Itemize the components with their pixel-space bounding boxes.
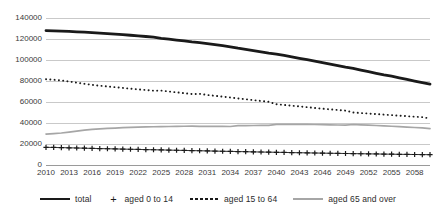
- x-axis-label: 2055: [383, 168, 401, 178]
- y-axis-label: 140000: [0, 14, 46, 22]
- x-axis-label: 2049: [337, 168, 355, 178]
- solid-thick-line-icon: [40, 195, 70, 204]
- data-point-marker: [89, 146, 94, 151]
- data-point-marker: [343, 151, 348, 156]
- population-projection-chart: 020000400006000080000100000120000140000 …: [0, 0, 436, 218]
- data-point-marker: [113, 146, 118, 151]
- legend-item[interactable]: total: [40, 194, 92, 204]
- y-axis-label: 80000: [0, 77, 46, 85]
- data-point-marker: [251, 149, 256, 154]
- data-point-marker: [312, 150, 317, 155]
- data-point-marker: [320, 151, 325, 156]
- data-point-marker: [143, 147, 148, 152]
- data-point-marker: [128, 147, 133, 152]
- y-axis-label: 40000: [0, 119, 46, 127]
- axis-baseline: [46, 165, 430, 166]
- data-point-marker: [351, 151, 356, 156]
- x-axis-label: 2031: [198, 168, 216, 178]
- data-point-marker: [159, 147, 164, 152]
- data-point-marker: [189, 148, 194, 153]
- legend-item-label: aged 0 to 14: [125, 194, 173, 204]
- data-point-marker: [381, 151, 386, 156]
- data-point-marker: [266, 150, 271, 155]
- data-point-marker: [389, 152, 394, 157]
- dotted-line-icon: [189, 195, 219, 204]
- data-point-marker: [305, 150, 310, 155]
- data-point-marker: [151, 147, 156, 152]
- data-point-marker: [404, 152, 409, 157]
- x-axis-label: 2013: [60, 168, 78, 178]
- data-point-marker: [412, 152, 417, 157]
- y-axis-label: 100000: [0, 56, 46, 64]
- data-point-marker: [243, 149, 248, 154]
- legend-item[interactable]: +aged 0 to 14: [108, 194, 173, 204]
- data-point-marker: [97, 146, 102, 151]
- legend-item[interactable]: aged 65 and over: [293, 194, 396, 204]
- x-axis-label: 2037: [244, 168, 262, 178]
- data-point-marker: [197, 148, 202, 153]
- data-point-marker: [220, 149, 225, 154]
- series-total: [46, 31, 430, 85]
- x-axis-label: 2058: [406, 168, 424, 178]
- data-point-marker: [235, 149, 240, 154]
- legend-item-label: aged 65 and over: [328, 194, 396, 204]
- series-aged-0-to-14: [43, 145, 432, 158]
- y-axis-tick-labels: 020000400006000080000100000120000140000: [0, 0, 42, 218]
- data-point-marker: [427, 152, 432, 157]
- data-point-marker: [51, 145, 56, 150]
- data-point-marker: [258, 149, 263, 154]
- data-point-marker: [297, 150, 302, 155]
- x-axis-label: 2052: [360, 168, 378, 178]
- x-axis-label: 2028: [175, 168, 193, 178]
- data-point-marker: [120, 146, 125, 151]
- x-axis-label: 2025: [152, 168, 170, 178]
- series-layer: [46, 18, 430, 165]
- legend-item-label: aged 15 to 64: [224, 194, 277, 204]
- grey-line-icon: [293, 195, 323, 204]
- x-axis-label: 2043: [291, 168, 309, 178]
- y-axis-label: 60000: [0, 98, 46, 106]
- data-point-marker: [420, 152, 425, 157]
- x-axis-label: 2034: [221, 168, 239, 178]
- data-point-marker: [205, 148, 210, 153]
- legend-item-label: total: [75, 194, 92, 204]
- data-point-marker: [366, 151, 371, 156]
- x-axis-label: 2046: [314, 168, 332, 178]
- data-point-marker: [66, 145, 71, 150]
- data-point-marker: [82, 146, 87, 151]
- data-point-marker: [374, 151, 379, 156]
- data-point-marker: [274, 150, 279, 155]
- plus-marker-icon: +: [108, 195, 120, 204]
- series-aged-15-to-64: [46, 79, 430, 118]
- data-point-marker: [228, 149, 233, 154]
- data-point-marker: [328, 151, 333, 156]
- data-point-marker: [289, 150, 294, 155]
- data-point-marker: [212, 148, 217, 153]
- data-point-marker: [136, 147, 141, 152]
- x-axis-label: 2016: [83, 168, 101, 178]
- data-point-marker: [174, 148, 179, 153]
- data-point-marker: [335, 151, 340, 156]
- data-point-marker: [182, 148, 187, 153]
- x-axis-tick-labels: 2010201320162019202220252028203120342037…: [46, 168, 430, 182]
- x-axis-label: 2019: [106, 168, 124, 178]
- data-point-marker: [74, 145, 79, 150]
- data-point-marker: [166, 148, 171, 153]
- y-axis-label: 20000: [0, 140, 46, 148]
- data-point-marker: [397, 152, 402, 157]
- data-point-marker: [358, 151, 363, 156]
- legend-item[interactable]: aged 15 to 64: [189, 194, 277, 204]
- series-aged-65-and-over: [46, 124, 430, 134]
- data-point-marker: [105, 146, 110, 151]
- plot-area: [46, 18, 430, 165]
- x-axis-label: 2040: [267, 168, 285, 178]
- data-point-marker: [281, 150, 286, 155]
- x-axis-label: 2022: [129, 168, 147, 178]
- y-axis-label: 120000: [0, 35, 46, 43]
- chart-legend: total+aged 0 to 14aged 15 to 64aged 65 a…: [0, 188, 436, 210]
- data-point-marker: [59, 145, 64, 150]
- x-axis-label: 2010: [37, 168, 55, 178]
